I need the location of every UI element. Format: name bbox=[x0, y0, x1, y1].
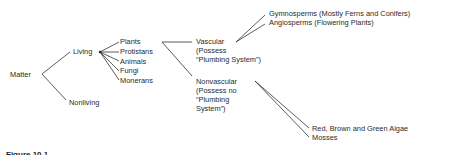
node-fungi: Fungi bbox=[120, 66, 139, 75]
node-monerans: Monerans bbox=[120, 76, 153, 85]
node-vascular: Vascular (Possess “Plumbing System”) bbox=[196, 37, 261, 64]
nonvascular-line-2: (Possess no bbox=[196, 86, 237, 95]
node-mosses: Mosses bbox=[312, 133, 337, 142]
node-gymnosperms: Gymnosperms (Mostly Ferns and Conifers) bbox=[269, 9, 410, 18]
vascular-line-2: (Possess bbox=[196, 46, 261, 55]
node-protistans: Protistans bbox=[120, 47, 153, 56]
nonvascular-line-4: System”) bbox=[196, 104, 237, 113]
vascular-line-3: “Plumbing System”) bbox=[196, 55, 261, 64]
nonvascular-line-1: Nonvascular bbox=[196, 77, 237, 86]
node-algae: Red, Brown and Green Algae bbox=[312, 124, 408, 133]
node-animals: Animals bbox=[120, 57, 146, 66]
node-nonliving: Nonliving bbox=[69, 98, 99, 107]
node-nonvascular: Nonvascular (Possess no “Plumbing System… bbox=[196, 77, 237, 113]
node-living: Living bbox=[73, 47, 92, 56]
figure-caption: Figure 10.1 bbox=[6, 150, 48, 155]
node-plants: Plants bbox=[120, 37, 141, 46]
node-angiosperms: Angiosperms (Flowering Plants) bbox=[269, 18, 374, 27]
vascular-line-1: Vascular bbox=[196, 37, 261, 46]
nonvascular-line-3: “Plumbing bbox=[196, 95, 237, 104]
node-matter: Matter bbox=[10, 70, 31, 79]
